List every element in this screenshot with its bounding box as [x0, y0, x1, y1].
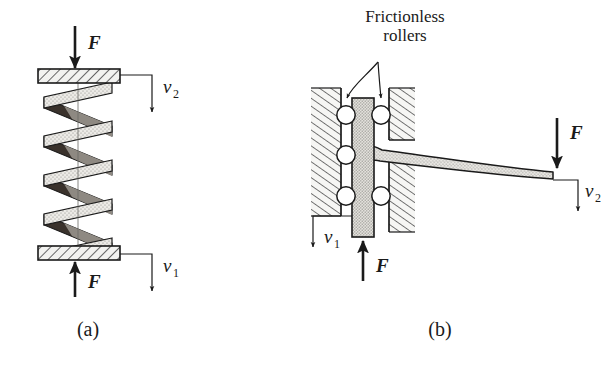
- roller: [372, 106, 390, 124]
- figure-root: F F v 2 v 1 (a): [0, 0, 612, 367]
- wall-right-upper: [389, 88, 415, 140]
- svg-text:v: v: [585, 180, 594, 201]
- spring-bottom-plate: [38, 246, 120, 260]
- engineering-figure-svg: F F v 2 v 1 (a): [0, 0, 612, 367]
- annotation-frictionless-line1: Frictionless: [365, 7, 444, 26]
- wall-right-lower: [389, 160, 415, 232]
- svg-text:2: 2: [595, 191, 601, 205]
- svg-text:1: 1: [334, 237, 340, 251]
- svg-text:v: v: [163, 76, 172, 97]
- label-force-slider: F: [375, 255, 389, 276]
- annotation-leaders: [347, 62, 381, 98]
- velocity-leader-beam-tip: [553, 180, 578, 211]
- label-force-bottom-a: F: [87, 271, 101, 292]
- svg-text:v: v: [163, 255, 172, 276]
- label-force-beam-tip: F: [569, 122, 583, 143]
- panel-a-group: F F v 2 v 1 (a): [38, 26, 179, 341]
- spring-coil: [44, 82, 112, 259]
- panel-b-group: Frictionless rollers F F v 2 v 1 (b): [311, 7, 601, 341]
- spring-top-plate: [38, 69, 120, 83]
- svg-text:1: 1: [173, 266, 179, 280]
- label-force-top-a: F: [87, 32, 101, 53]
- label-velocity-beam-tip: v 2: [585, 180, 601, 205]
- velocity-leader-slider: [313, 216, 352, 247]
- roller: [337, 146, 355, 164]
- velocity-leader-bottom: [120, 254, 152, 291]
- annotation-frictionless-line2: rollers: [383, 26, 426, 45]
- caption-panel-b: (b): [428, 318, 451, 341]
- caption-panel-a: (a): [77, 318, 99, 341]
- velocity-leader-top: [120, 75, 152, 112]
- roller: [337, 187, 355, 205]
- label-velocity-top-a: v 2: [163, 76, 179, 101]
- svg-text:2: 2: [173, 87, 179, 101]
- slider-bar: [352, 98, 374, 237]
- label-velocity-bottom-a: v 1: [163, 255, 179, 280]
- label-velocity-slider: v 1: [324, 226, 340, 251]
- svg-text:v: v: [324, 226, 333, 247]
- rollers-left: [337, 106, 355, 205]
- roller: [372, 187, 390, 205]
- roller: [337, 106, 355, 124]
